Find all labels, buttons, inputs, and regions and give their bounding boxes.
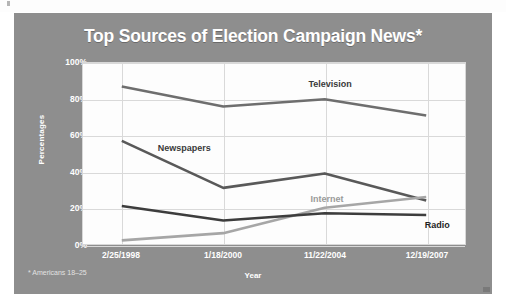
y-axis-title: Percentages (37, 95, 46, 185)
y-tick-label: 60% (47, 130, 87, 140)
series-line-radio (122, 206, 426, 220)
plot-area (82, 62, 466, 245)
x-tick-label: 2/25/1998 (102, 250, 140, 260)
y-tick-label: 20% (47, 203, 87, 213)
series-label-radio: Radio (425, 220, 450, 230)
series-line-television (122, 87, 426, 116)
series-label-newspapers: Newspapers (158, 143, 211, 153)
y-tick-label: 80% (47, 94, 87, 104)
y-tick-label: 100% (47, 57, 87, 67)
x-tick-label: 1/18/2000 (204, 250, 242, 260)
chart-title: Top Sources of Election Campaign News* (14, 26, 492, 47)
chart-figure: Top Sources of Election Campaign News* P… (14, 13, 492, 294)
series-label-television: Television (308, 79, 351, 89)
y-tick-label: 40% (47, 167, 87, 177)
gridline-horizontal (83, 246, 465, 247)
x-tick-label: 12/19/2007 (406, 250, 449, 260)
page-scan-artifact (0, 0, 506, 12)
chart-footnote: * Americans 18–25 (28, 269, 87, 276)
series-label-internet: Internet (311, 194, 344, 204)
series-lines (83, 63, 465, 244)
x-tick-label: 11/22/2004 (304, 250, 346, 260)
series-line-internet (122, 197, 426, 240)
y-tick-label: 0% (47, 240, 87, 250)
